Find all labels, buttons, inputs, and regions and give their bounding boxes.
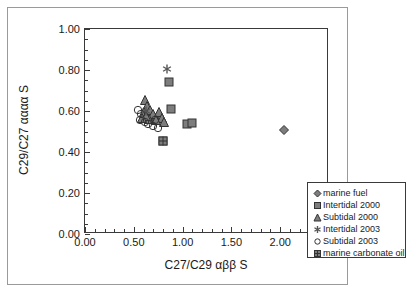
y-axis-label: C29/C27 αααα S (17, 85, 31, 175)
data-point (141, 107, 150, 116)
x-tick-label: 0.00 (74, 236, 95, 248)
x-tick-minor (144, 229, 145, 232)
square-crossed-icon (312, 248, 323, 259)
data-point (144, 120, 153, 129)
data-point (136, 110, 145, 119)
x-tick-minor (251, 229, 252, 232)
data-point (188, 119, 197, 128)
y-tick-minor (85, 203, 88, 204)
legend-label: marine carbonate oil (323, 248, 405, 259)
data-point (154, 124, 163, 133)
data-point (155, 108, 164, 117)
legend-item[interactable]: Intertidal 2003 (312, 224, 402, 235)
data-point (140, 95, 149, 104)
data-point (149, 122, 158, 131)
data-point (149, 110, 158, 119)
data-point (183, 120, 192, 129)
y-tick-major (85, 111, 90, 112)
data-point (133, 105, 142, 114)
y-tick-minor (85, 214, 88, 215)
x-tick-minor (212, 229, 213, 232)
plot-area: 0.000.200.400.600.801.000.000.501.001.50… (84, 28, 328, 233)
y-tick-major (85, 29, 90, 30)
x-tick-minor (95, 229, 96, 232)
x-tick-label: 1.00 (172, 236, 193, 248)
data-point (139, 108, 148, 117)
y-tick-label: 1.00 (59, 23, 80, 35)
data-point (159, 136, 168, 145)
y-tick-minor (85, 183, 88, 184)
legend-item[interactable]: marine carbonate oil (312, 248, 402, 259)
y-tick-minor (85, 142, 88, 143)
data-point (142, 112, 151, 121)
y-tick-major (85, 70, 90, 71)
legend-label: Intertidal 2000 (323, 200, 380, 211)
x-tick-label: 2.00 (269, 236, 290, 248)
x-tick-minor (290, 229, 291, 232)
legend-label: Subtidal 2003 (323, 236, 378, 247)
y-tick-label: 0.20 (59, 187, 80, 199)
x-tick-minor (105, 229, 106, 232)
legend-item[interactable]: marine fuel (312, 188, 402, 199)
data-point (140, 118, 149, 127)
y-tick-major (85, 193, 90, 194)
legend-label: marine fuel (323, 188, 368, 199)
x-tick-minor (270, 229, 271, 232)
data-point (151, 116, 160, 125)
legend-item[interactable]: Subtidal 2003 (312, 236, 402, 247)
x-tick-major (134, 227, 135, 232)
legend-item[interactable]: Intertidal 2000 (312, 200, 402, 211)
y-tick-minor (85, 39, 88, 40)
y-tick-minor (85, 162, 88, 163)
x-tick-label: 1.50 (221, 236, 242, 248)
x-tick-minor (163, 229, 164, 232)
data-point (159, 136, 168, 145)
y-tick-label: 0.40 (59, 146, 80, 158)
data-point (280, 126, 289, 135)
x-tick-minor (300, 229, 301, 232)
data-point (164, 78, 173, 87)
legend-item[interactable]: Subtidal 2000 (312, 212, 402, 223)
x-tick-major (231, 227, 232, 232)
data-point (143, 101, 152, 110)
y-tick-major (85, 234, 90, 235)
data-point (152, 116, 161, 125)
asterisk-icon (312, 224, 323, 235)
y-tick-minor (85, 60, 88, 61)
data-point (137, 114, 146, 123)
x-tick-minor (114, 229, 115, 232)
x-tick-major (280, 227, 281, 232)
x-tick-minor (173, 229, 174, 232)
x-tick-minor (124, 229, 125, 232)
data-point (160, 118, 169, 127)
data-point (145, 115, 154, 124)
chart-legend: marine fuelIntertidal 2000Subtidal 2000I… (307, 182, 406, 258)
x-axis-label: C27/C29 αββ S (165, 258, 248, 272)
data-point (162, 64, 171, 73)
legend-label: Intertidal 2003 (323, 224, 380, 235)
y-tick-minor (85, 80, 88, 81)
y-tick-label: 0.60 (59, 105, 80, 117)
x-tick-major (183, 227, 184, 232)
data-point (146, 105, 155, 114)
y-tick-minor (85, 101, 88, 102)
x-tick-label: 0.50 (123, 236, 144, 248)
y-tick-major (85, 152, 90, 153)
y-tick-minor (85, 132, 88, 133)
x-tick-minor (192, 229, 193, 232)
data-point (145, 112, 154, 121)
y-tick-minor (85, 173, 88, 174)
y-tick-minor (85, 50, 88, 51)
x-tick-minor (261, 229, 262, 232)
data-point (158, 114, 167, 123)
legend-label: Subtidal 2000 (323, 212, 378, 223)
data-point (159, 136, 168, 145)
circle-open-icon (312, 236, 323, 247)
x-tick-major (85, 227, 86, 232)
data-point (135, 116, 144, 125)
square-icon (312, 200, 323, 211)
data-point (166, 104, 175, 113)
data-point (151, 114, 160, 123)
y-tick-minor (85, 121, 88, 122)
